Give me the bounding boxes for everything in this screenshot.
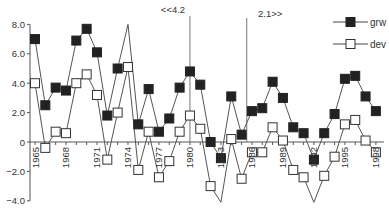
x-tick-label: 1995: [339, 147, 350, 168]
point-grw-1968: [61, 86, 70, 95]
point-dev-1974: [123, 63, 132, 72]
point-dev-1968: [61, 129, 70, 138]
point-grw-1965: [31, 35, 40, 44]
line-chart: 8.06.04.02.00−2.0−4.01965196819711974197…: [0, 0, 389, 215]
point-grw-1975: [134, 120, 143, 129]
point-dev-1985: [237, 174, 246, 183]
point-dev-1965: [31, 79, 40, 88]
point-grw-1981: [196, 80, 205, 89]
point-grw-1994: [330, 110, 339, 119]
series-line-grw: [35, 24, 376, 159]
legend-label-grw: grw: [370, 17, 387, 28]
x-tick-label: 1989: [277, 147, 288, 168]
point-grw-1970: [82, 24, 91, 33]
point-grw-1973: [113, 64, 122, 73]
legend-marker-dev: [346, 40, 355, 49]
x-tick-label: 1983: [215, 147, 226, 168]
x-tick-label: 1980: [184, 147, 195, 168]
point-grw-1979: [175, 83, 184, 92]
point-dev-1996: [351, 115, 360, 124]
point-dev-1980: [185, 111, 194, 120]
point-dev-1975: [134, 165, 143, 174]
point-grw-1980: [185, 67, 194, 76]
point-grw-1978: [165, 114, 174, 123]
point-dev-1994: [330, 152, 339, 161]
y-tick-label: 8.0: [12, 19, 25, 30]
series-markers: [31, 24, 381, 190]
point-grw-1982: [206, 138, 215, 147]
y-tick-label: 0: [20, 137, 25, 148]
point-dev-1970: [82, 70, 91, 79]
point-dev-1997: [361, 136, 370, 145]
point-grw-1990: [289, 123, 298, 132]
point-dev-1977: [154, 173, 163, 182]
point-dev-1967: [51, 127, 60, 136]
x-tick-label: 1968: [60, 147, 71, 168]
point-dev-1979: [175, 127, 184, 136]
point-dev-1989: [278, 136, 287, 145]
point-grw-1991: [299, 129, 308, 138]
point-dev-1990: [289, 165, 298, 174]
y-tick-label: −4.0: [6, 195, 25, 206]
legend: grw dev: [333, 17, 387, 50]
point-grw-1966: [41, 101, 50, 110]
legend-label-dev: dev: [370, 39, 386, 50]
point-dev-1987: [258, 148, 267, 157]
point-dev-1978: [165, 157, 174, 166]
point-dev-1966: [41, 143, 50, 152]
y-tick-label: −2.0: [6, 166, 25, 177]
x-tick-label: 1965: [30, 147, 41, 168]
point-dev-1982: [206, 182, 215, 191]
point-grw-1989: [278, 93, 287, 102]
point-grw-1988: [268, 77, 277, 86]
y-tick-label: 6.0: [12, 48, 25, 59]
point-grw-1986: [247, 107, 256, 116]
point-dev-1991: [299, 173, 308, 182]
point-dev-1971: [92, 90, 101, 99]
point-dev-1988: [268, 123, 277, 132]
point-grw-1977: [154, 127, 163, 136]
x-tick-label: 1998: [370, 147, 381, 168]
point-grw-1969: [72, 36, 81, 45]
x-tick-label: 1992: [308, 147, 319, 168]
point-dev-1973: [113, 108, 122, 117]
point-grw-1995: [340, 74, 349, 83]
point-grw-1985: [237, 130, 246, 139]
point-grw-1987: [258, 104, 267, 113]
point-dev-1993: [320, 171, 329, 180]
point-grw-1972: [103, 111, 112, 120]
point-grw-1998: [371, 107, 380, 116]
point-dev-1969: [72, 79, 81, 88]
x-tick-label: 1971: [91, 147, 102, 168]
y-tick-label: 2.0: [12, 107, 25, 118]
point-dev-1984: [227, 135, 236, 144]
x-tick-label: 1977: [153, 147, 164, 168]
point-dev-1981: [196, 124, 205, 133]
point-dev-1995: [340, 120, 349, 129]
x-tick-label: 1974: [122, 147, 133, 168]
point-grw-1984: [227, 92, 236, 101]
point-grw-1996: [351, 71, 360, 80]
point-grw-1967: [51, 83, 60, 92]
x-tick-label: 1986: [246, 147, 257, 168]
point-grw-1976: [144, 85, 153, 94]
legend-marker-grw: [346, 18, 355, 27]
y-tick-label: 4.0: [12, 78, 25, 89]
annotation-label-left: <<4.2: [161, 4, 185, 15]
point-dev-1976: [144, 127, 153, 136]
point-grw-1997: [361, 92, 370, 101]
point-dev-1972: [103, 155, 112, 164]
annotation-label-right: 2.1>>: [258, 8, 283, 19]
point-grw-1993: [320, 129, 329, 138]
point-grw-1971: [92, 48, 101, 57]
